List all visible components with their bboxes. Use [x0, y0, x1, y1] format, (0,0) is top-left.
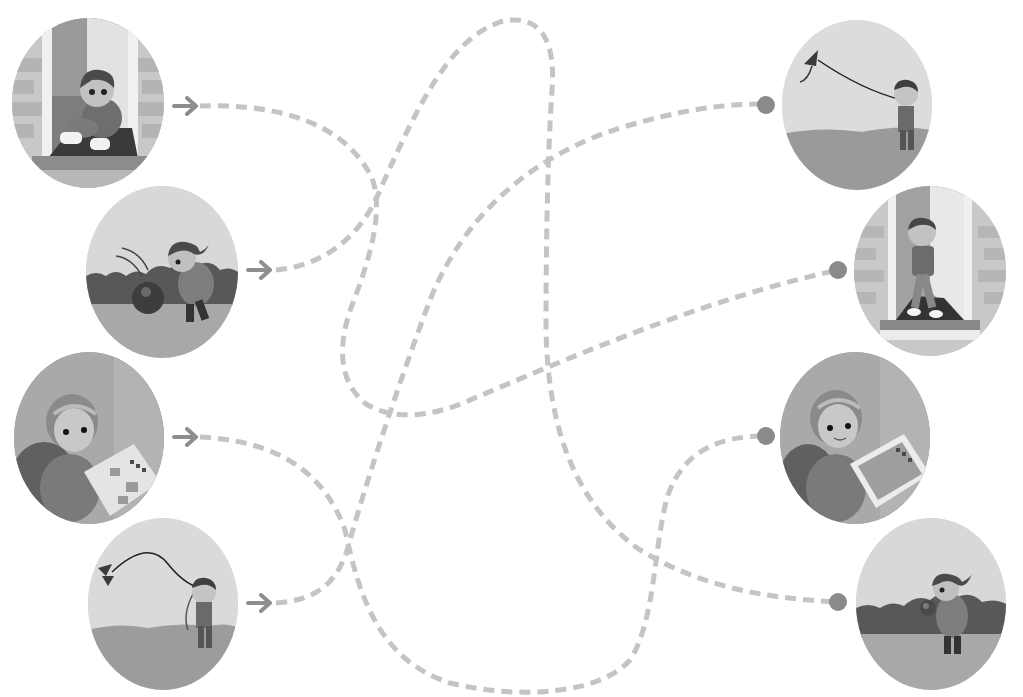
endpoint-dot[interactable] [829, 593, 847, 611]
matching-maze-worksheet [0, 0, 1023, 697]
picture-boy-leaving-house[interactable] [854, 186, 1006, 356]
arrow-icon [172, 427, 200, 447]
endpoint-dot[interactable] [757, 96, 775, 114]
picture-girl-holding-ball[interactable] [856, 518, 1006, 690]
arrow-icon [246, 260, 274, 280]
illustration [854, 186, 1006, 356]
arrow-icon [246, 593, 274, 613]
picture-girl-chasing-ball[interactable] [86, 186, 238, 358]
illustration [86, 186, 238, 358]
illustration [856, 518, 1006, 690]
picture-boy-tying-shoes[interactable] [12, 18, 164, 188]
illustration [88, 518, 238, 690]
path-l3 [200, 436, 766, 692]
endpoint-dot[interactable] [757, 427, 775, 445]
picture-boy-kite-falling[interactable] [88, 518, 238, 690]
path-l4 [276, 104, 766, 603]
arrow-icon [172, 96, 200, 116]
path-l1 [200, 106, 838, 415]
illustration [12, 18, 164, 188]
picture-boy-kite-flying[interactable] [782, 20, 932, 190]
illustration [780, 352, 930, 524]
illustration [14, 352, 164, 524]
path-l2 [276, 20, 838, 602]
picture-girl-puzzle-finished[interactable] [780, 352, 930, 524]
picture-girl-puzzle-unfinished[interactable] [14, 352, 164, 524]
illustration [782, 20, 932, 190]
endpoint-dot[interactable] [829, 261, 847, 279]
